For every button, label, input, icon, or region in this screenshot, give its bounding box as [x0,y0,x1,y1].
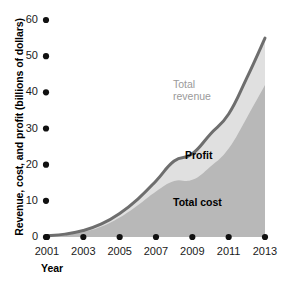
chart-plot-area [0,0,286,281]
y-tick-dot [43,162,49,168]
x-tick-dot [44,234,50,240]
x-tick-label: 2005 [100,245,140,257]
y-tick-dot [43,198,49,204]
x-tick-dot [262,234,268,240]
y-tick-label: 50 [12,49,38,61]
x-tick-dot [226,234,232,240]
x-tick-label: 2009 [172,245,212,257]
y-axis-tick-dots [43,17,49,240]
x-tick-dot [189,234,195,240]
y-tick-label: 60 [12,13,38,25]
y-tick-dot [43,17,49,23]
y-tick-label: 10 [12,194,38,206]
x-tick-label: 2011 [209,245,249,257]
x-tick-dot [117,234,123,240]
x-tick-label: 2003 [63,245,103,257]
x-tick-label: 2013 [245,245,285,257]
y-tick-label: 20 [12,158,38,170]
x-tick-label: 2007 [136,245,176,257]
x-axis-title: Year [41,262,63,274]
y-tick-label: 40 [12,85,38,97]
x-tick-dot [153,234,159,240]
y-tick-dot [43,53,49,59]
y-tick-label: 0 [12,230,38,242]
x-tick-dot [80,234,86,240]
y-tick-dot [43,89,49,95]
chart-container: Revenue, cost, and profit (billions of d… [0,0,286,281]
x-tick-label: 2001 [27,245,67,257]
y-tick-label: 30 [12,122,38,134]
y-tick-dot [43,125,49,131]
